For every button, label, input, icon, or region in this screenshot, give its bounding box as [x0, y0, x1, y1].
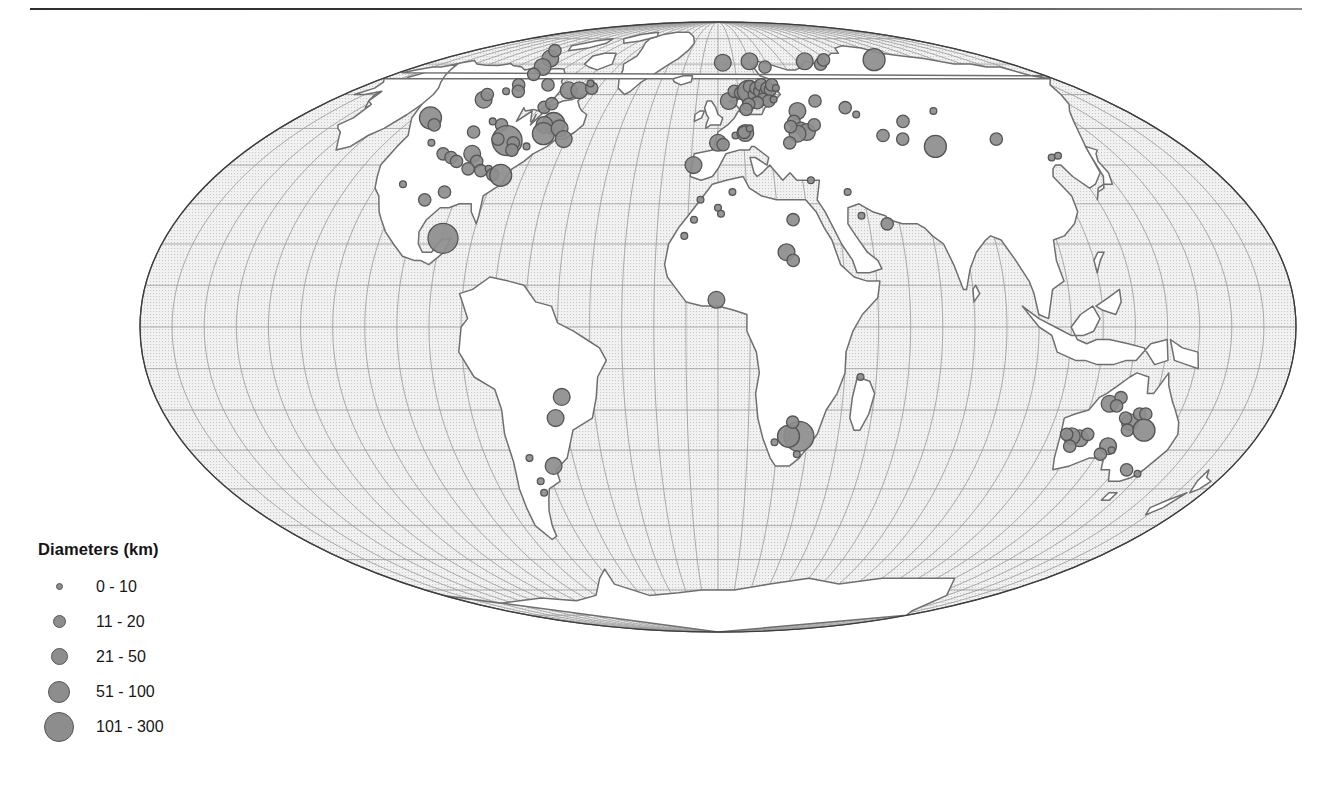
- crater-symbol: [503, 88, 510, 95]
- crater-symbol: [770, 96, 777, 103]
- crater-symbol: [542, 79, 554, 91]
- crater-symbol: [809, 95, 821, 107]
- crater-symbol: [740, 103, 752, 115]
- crater-symbol: [778, 425, 800, 447]
- crater-symbol: [877, 129, 889, 141]
- legend-title: Diameters (km): [38, 540, 276, 559]
- crater-symbol: [857, 374, 864, 381]
- legend-item: 0 - 10: [36, 569, 276, 604]
- crater-symbol: [492, 133, 504, 145]
- top-border-rule: [30, 8, 1302, 10]
- crater-symbol: [523, 143, 530, 150]
- crater-symbol: [787, 254, 799, 266]
- crater-symbol: [1064, 440, 1076, 452]
- crater-symbol: [697, 196, 704, 203]
- crater-symbol: [1133, 419, 1155, 441]
- crater-symbol: [1055, 152, 1062, 159]
- crater-symbol: [759, 61, 771, 73]
- crater-symbol: [881, 218, 893, 230]
- crater-symbol: [844, 189, 851, 196]
- crater-symbol: [549, 45, 561, 57]
- crater-symbol: [541, 489, 548, 496]
- legend-swatch: [36, 681, 82, 703]
- legend-item-label: 21 - 50: [96, 648, 146, 666]
- crater-symbol: [858, 212, 865, 219]
- legend-circle-icon: [48, 681, 70, 703]
- crater-symbol: [546, 98, 558, 110]
- crater-symbol: [428, 119, 440, 131]
- crater-symbol: [537, 478, 544, 485]
- legend-item: 21 - 50: [36, 639, 276, 674]
- legend-item-label: 0 - 10: [96, 578, 137, 596]
- legend-item-label: 101 - 300: [96, 718, 164, 736]
- legend-swatch: [36, 648, 82, 665]
- crater-symbol: [714, 54, 731, 71]
- crater-symbol: [481, 88, 493, 100]
- crater-symbol: [863, 49, 885, 71]
- crater-symbol: [553, 389, 570, 406]
- crater-symbol: [587, 80, 594, 87]
- crater-symbol: [1094, 448, 1106, 460]
- crater-symbol: [853, 111, 860, 118]
- crater-symbol: [1121, 424, 1133, 436]
- crater-symbol: [787, 416, 799, 428]
- crater-symbol: [773, 85, 780, 92]
- crater-symbol: [793, 451, 800, 458]
- crater-symbol: [1110, 400, 1122, 412]
- crater-symbol: [528, 68, 540, 80]
- crater-symbol: [438, 186, 450, 198]
- crater-symbol: [717, 138, 729, 150]
- crater-symbol: [784, 137, 796, 149]
- crater-symbol: [729, 189, 736, 196]
- legend-circle-icon: [53, 615, 66, 628]
- crater-symbol: [1120, 464, 1132, 476]
- legend-rows: 0 - 1011 - 2021 - 5051 - 100101 - 300: [36, 569, 276, 744]
- crater-symbol: [450, 155, 462, 167]
- crater-symbol: [681, 233, 688, 240]
- crater-symbol: [1061, 428, 1073, 440]
- crater-symbol: [428, 139, 435, 146]
- crater-symbol: [771, 439, 778, 446]
- legend-circle-icon: [51, 648, 68, 665]
- crater-symbol: [462, 163, 474, 175]
- crater-symbol: [897, 115, 909, 127]
- crater-symbol: [808, 119, 820, 131]
- crater-symbol: [1140, 408, 1152, 420]
- crater-symbol: [467, 126, 479, 138]
- legend-circle-icon: [56, 583, 63, 590]
- crater-symbol: [400, 181, 407, 188]
- crater-symbol: [685, 157, 702, 174]
- crater-symbol: [708, 291, 725, 308]
- legend-item: 11 - 20: [36, 604, 276, 639]
- legend-item: 101 - 300: [36, 709, 276, 744]
- crater-symbol: [490, 164, 512, 186]
- impact-crater-world-map-figure: Diameters (km) 0 - 1011 - 2021 - 5051 - …: [0, 0, 1332, 789]
- crater-symbol: [419, 194, 431, 206]
- crater-symbol: [1119, 412, 1131, 424]
- legend: Diameters (km) 0 - 1011 - 2021 - 5051 - …: [36, 540, 276, 744]
- crater-symbol: [506, 144, 518, 156]
- crater-symbol: [808, 177, 815, 184]
- crater-symbol: [1082, 428, 1094, 440]
- crater-symbol: [796, 53, 813, 70]
- crater-symbol: [547, 410, 564, 427]
- legend-circle-icon: [44, 712, 74, 742]
- crater-symbol: [571, 82, 588, 99]
- crater-symbol: [924, 135, 946, 157]
- crater-symbol: [817, 54, 829, 66]
- crater-symbol: [1108, 447, 1115, 454]
- crater-symbol: [489, 118, 496, 125]
- crater-symbol: [512, 85, 524, 97]
- legend-swatch: [36, 583, 82, 590]
- crater-symbol: [741, 53, 758, 70]
- crater-symbol: [897, 133, 909, 145]
- crater-symbol: [930, 108, 937, 115]
- crater-symbol: [691, 216, 698, 223]
- crater-symbol: [718, 210, 725, 217]
- crater-symbol: [428, 223, 458, 253]
- crater-symbol: [526, 455, 533, 462]
- crater-symbol: [990, 133, 1002, 145]
- legend-item: 51 - 100: [36, 674, 276, 709]
- crater-symbol: [545, 458, 562, 475]
- crater-symbol: [555, 131, 572, 148]
